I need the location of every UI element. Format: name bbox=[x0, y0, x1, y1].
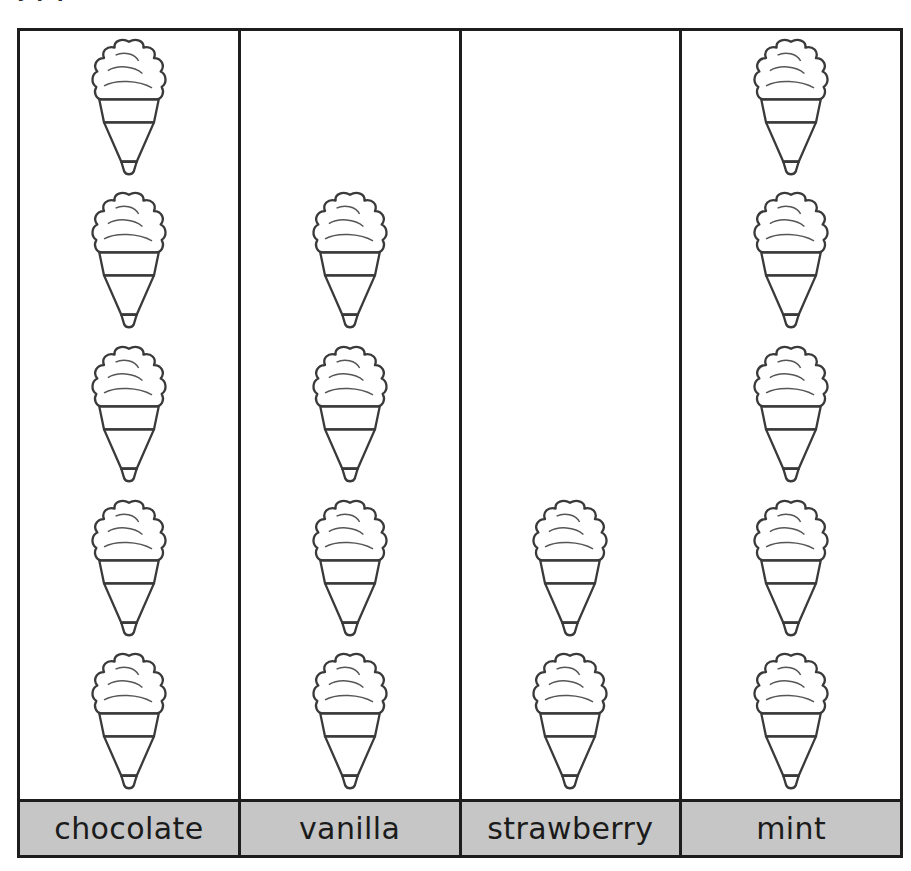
ice-cream-cone-icon bbox=[743, 650, 839, 794]
clipped-header-text: y p p bbox=[17, 0, 317, 12]
pictograph-unit-vanilla bbox=[241, 492, 459, 646]
pictograph-column-mint bbox=[682, 31, 900, 799]
pictograph-unit-vanilla bbox=[241, 338, 459, 492]
pictograph-unit-chocolate bbox=[20, 338, 238, 492]
pictograph-unit-mint bbox=[682, 31, 900, 185]
pictograph-unit-mint bbox=[682, 338, 900, 492]
ice-cream-cone-icon bbox=[302, 497, 398, 641]
category-label-row: chocolatevanillastrawberrymint bbox=[20, 799, 900, 855]
category-label-chocolate: chocolate bbox=[20, 802, 241, 855]
pictograph-unit-strawberry bbox=[462, 492, 680, 646]
ice-cream-cone-icon bbox=[522, 497, 618, 641]
pictograph-column-chocolate bbox=[20, 31, 241, 799]
pictograph-unit-chocolate bbox=[20, 31, 238, 185]
pictograph-unit-vanilla bbox=[241, 645, 459, 799]
pictograph-unit-chocolate bbox=[20, 185, 238, 339]
pictograph-unit-mint bbox=[682, 492, 900, 646]
ice-cream-cone-icon bbox=[81, 497, 177, 641]
pictograph-unit-mint bbox=[682, 185, 900, 339]
pictograph-unit-chocolate bbox=[20, 645, 238, 799]
pictograph-plot-area bbox=[20, 31, 900, 799]
pictograph-column-vanilla bbox=[241, 31, 462, 799]
category-label-strawberry: strawberry bbox=[462, 802, 683, 855]
pictograph-unit-vanilla bbox=[241, 185, 459, 339]
ice-cream-cone-icon bbox=[302, 189, 398, 333]
ice-cream-cone-icon bbox=[743, 36, 839, 180]
pictograph-unit-chocolate bbox=[20, 492, 238, 646]
ice-cream-cone-icon bbox=[81, 650, 177, 794]
ice-cream-cone-icon bbox=[743, 497, 839, 641]
ice-cream-cone-icon bbox=[81, 343, 177, 487]
ice-cream-cone-icon bbox=[81, 189, 177, 333]
ice-cream-cone-icon bbox=[302, 650, 398, 794]
ice-cream-cone-icon bbox=[81, 36, 177, 180]
ice-cream-cone-icon bbox=[743, 189, 839, 333]
pictograph-chart: chocolatevanillastrawberrymint bbox=[17, 28, 903, 858]
category-label-vanilla: vanilla bbox=[241, 802, 462, 855]
ice-cream-cone-icon bbox=[302, 343, 398, 487]
pictograph-unit-strawberry bbox=[462, 645, 680, 799]
category-label-mint: mint bbox=[682, 802, 900, 855]
ice-cream-cone-icon bbox=[743, 343, 839, 487]
pictograph-unit-mint bbox=[682, 645, 900, 799]
ice-cream-cone-icon bbox=[522, 650, 618, 794]
pictograph-column-strawberry bbox=[462, 31, 683, 799]
